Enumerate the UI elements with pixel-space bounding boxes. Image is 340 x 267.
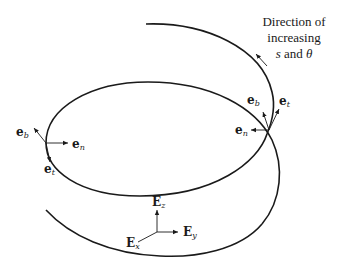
caption-and: and [281, 46, 306, 61]
left-eb-label: eb [16, 126, 29, 140]
right-eb-label: eb [247, 94, 260, 108]
Ex-vector [138, 232, 157, 242]
left-eb-vector [34, 128, 46, 143]
right-en-label: en [235, 124, 248, 138]
right-et-vector [269, 109, 279, 130]
caption-line-3: s and θ [248, 46, 340, 62]
var-theta: θ [306, 46, 312, 61]
Ey-label: Ey [183, 226, 197, 240]
Ex-label: Ex [126, 237, 140, 251]
left-en-label: en [72, 138, 85, 152]
right-et-label: et [279, 95, 290, 109]
caption-line-1: Direction of [248, 14, 340, 30]
caption-line-2: increasing [248, 30, 340, 46]
Ez-label: Ez [152, 196, 165, 210]
direction-caption: Direction of increasing s and θ [248, 14, 340, 62]
left-et-label: et [44, 163, 55, 177]
